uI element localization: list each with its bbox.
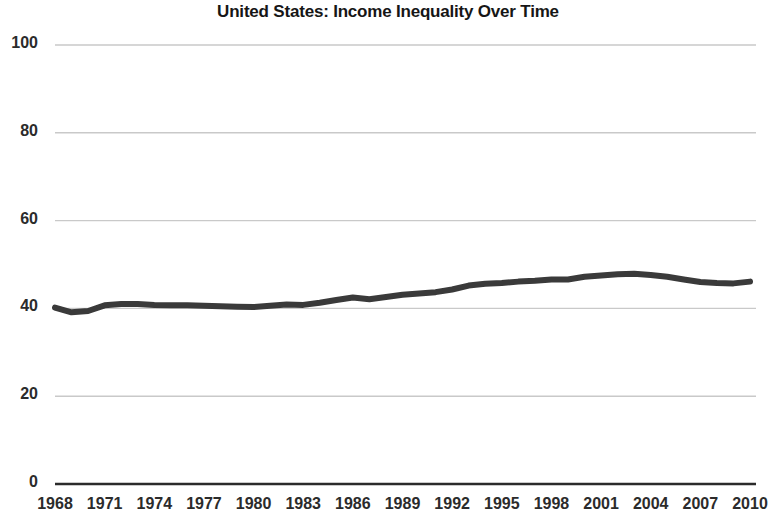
y-tick-label: 100 [0, 34, 38, 52]
x-tick-label: 1998 [524, 495, 578, 513]
x-tick-label: 1986 [326, 495, 380, 513]
x-tick-label: 1983 [276, 495, 330, 513]
x-tick-label: 2001 [574, 495, 628, 513]
gridlines-group [55, 45, 756, 396]
x-tick-label: 2004 [624, 495, 678, 513]
y-tick-label: 80 [0, 122, 38, 140]
x-tick-label: 1968 [28, 495, 82, 513]
x-tick-label: 2010 [723, 495, 776, 513]
x-tick-label: 2007 [673, 495, 727, 513]
data-series-group [55, 274, 750, 313]
x-tick-label: 1995 [475, 495, 529, 513]
x-tick-label: 1992 [425, 495, 479, 513]
y-tick-label: 0 [0, 473, 38, 491]
x-tick-label: 1980 [227, 495, 281, 513]
x-tick-label: 1989 [376, 495, 430, 513]
x-tick-label: 1971 [78, 495, 132, 513]
y-tick-label: 60 [0, 210, 38, 228]
x-tick-label: 1974 [127, 495, 181, 513]
chart-container: United States: Income Inequality Over Ti… [0, 0, 776, 524]
y-tick-label: 20 [0, 385, 38, 403]
plot-area [0, 0, 776, 524]
y-tick-label: 40 [0, 297, 38, 315]
x-tick-label: 1977 [177, 495, 231, 513]
chart-svg [0, 0, 776, 524]
series-line [55, 274, 750, 313]
